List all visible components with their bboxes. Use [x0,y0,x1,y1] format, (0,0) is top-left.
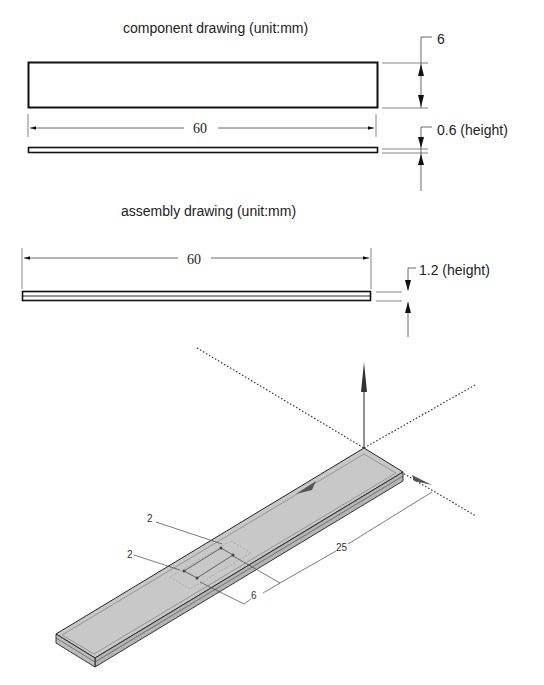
component-top-view [29,63,378,108]
dimension-line [280,551,336,583]
arrow-down-icon [418,137,424,148]
axis-x-arrow-icon [412,475,432,485]
dimension-line [244,599,251,604]
axis-dotted-line [401,472,476,516]
arrow-down-icon [405,280,411,291]
slot-width-label: 2 [147,513,153,524]
assembly-height-label: 1.2 (height) [419,262,490,278]
arrow-up-icon [418,64,424,76]
slot-vertex [196,577,199,580]
isometric-view: 2 2 6 25 [56,348,476,667]
component-width-label: 6 [437,31,445,47]
component-drawing-title: component drawing (unit:mm) [123,20,308,36]
axis-dotted-line [197,348,364,448]
slot-length-label: 6 [251,590,257,601]
slot-vertex [220,547,223,550]
assembly-length-label: 60 [187,252,201,267]
slot-offset-label: 2 [127,549,133,560]
component-drawing: component drawing (unit:mm) 60 6 0.6 (he… [28,20,508,191]
dimension-line [263,583,280,593]
assembly-drawing: assembly drawing (unit:mm) 60 1.2 (heigh… [22,203,490,337]
leader-line [156,522,222,544]
component-side-view [29,148,378,153]
component-height-label: 0.6 (height) [437,122,508,138]
arrow-up-icon [418,154,424,165]
plate-layer-line [95,476,403,662]
component-length-label: 60 [193,121,207,136]
axis-z-arrow-icon [361,362,367,392]
slot-vertex [183,570,186,573]
arrow-down-icon [418,95,424,107]
technical-drawing: component drawing (unit:mm) 60 6 0.6 (he… [0,0,544,685]
axis-dotted-line [364,385,475,448]
plate-side-face [95,472,403,667]
arrow-up-icon [405,302,411,313]
assembly-drawing-title: assembly drawing (unit:mm) [121,203,296,219]
distance-label: 25 [336,542,348,553]
leader-line [134,555,180,570]
